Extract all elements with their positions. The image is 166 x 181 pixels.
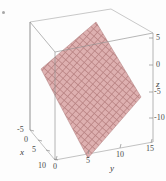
- y-axis-ticks: [56, 139, 152, 160]
- plane-surface: [41, 22, 141, 158]
- plot-canvas: [0, 0, 166, 181]
- x-axis-ticks: [30, 130, 58, 160]
- 3d-plot-figure: 5 0 -5 -10 z 0 5 10 15 y -5 0 5 10 x: [0, 0, 166, 181]
- z-axis-ticks: [149, 38, 153, 118]
